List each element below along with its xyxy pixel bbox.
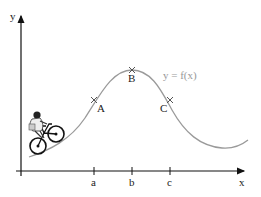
function-graph: y x a b c A B C y = f(x) — [0, 0, 261, 197]
curve-label: y = f(x) — [163, 69, 197, 82]
function-curve — [29, 70, 248, 157]
tick-label-b: b — [129, 176, 135, 188]
tick-label-a: a — [91, 176, 96, 188]
cyclist-icon — [29, 111, 64, 154]
y-axis-label: y — [10, 10, 16, 22]
point-C-label: C — [160, 102, 167, 114]
point-A-label: A — [97, 102, 105, 114]
point-B-label: B — [128, 72, 135, 84]
x-axis-label: x — [239, 176, 245, 188]
tick-label-c: c — [167, 176, 172, 188]
point-C-marker — [167, 97, 173, 103]
